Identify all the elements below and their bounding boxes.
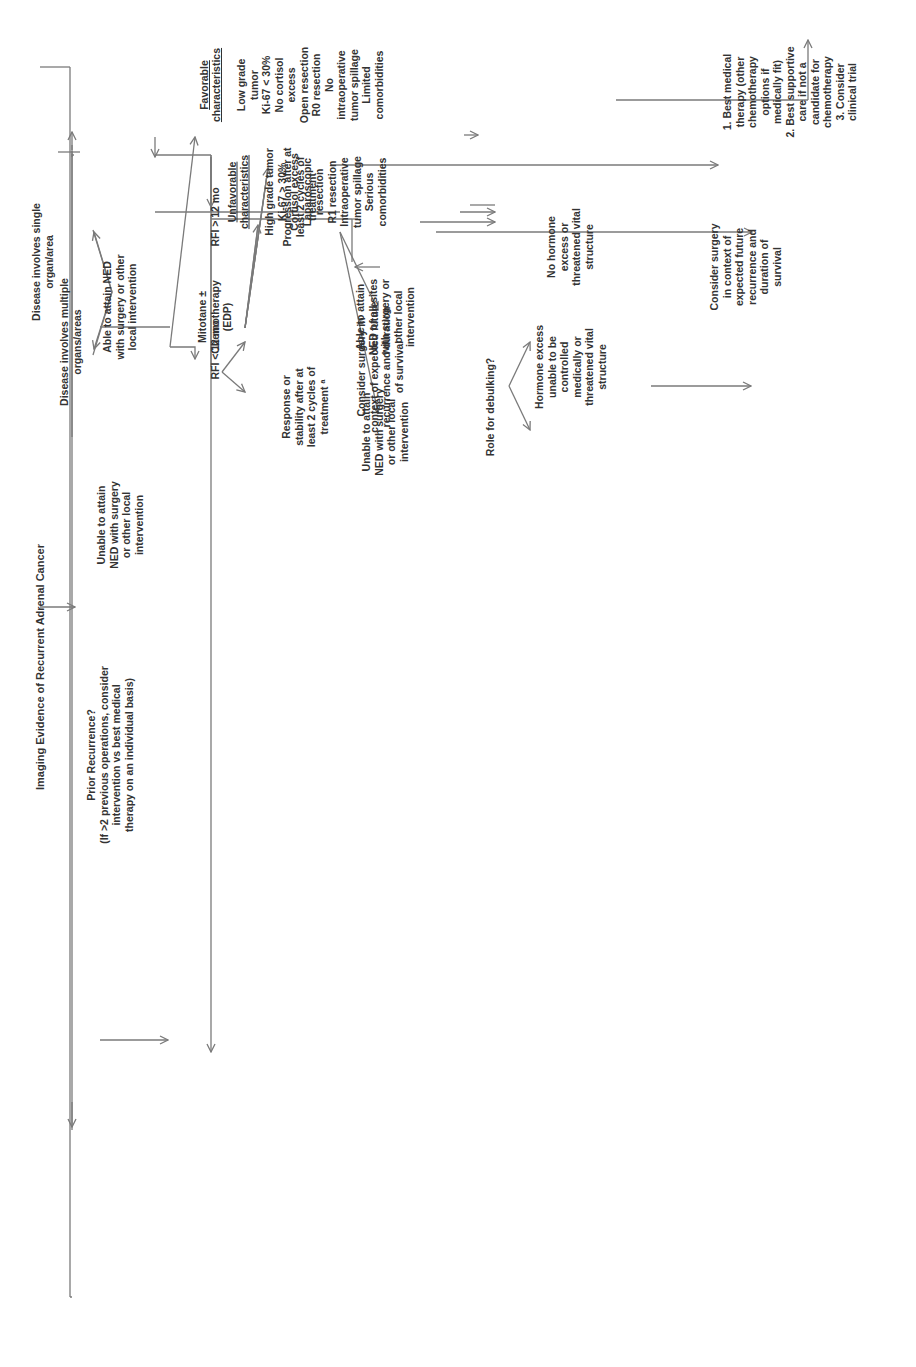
node-no-hormone-excess: No hormone excess or threatened vital st… [545,208,595,286]
node-hormone-excess: Hormone excess unable to be controlled m… [533,325,608,409]
node-prior-recurrence: Prior Recurrence? (If >2 previous operat… [85,666,135,844]
node-mitotane-chemotherapy: Mitotane ± Chemotherapy (EDP) [196,280,234,354]
node-consider-surgery-right: Consider surgery in context of expected … [708,224,783,311]
node-multiple-organs: Disease involves multiple organs/areas [58,278,83,406]
node-response-stability: Response or stability after at least 2 c… [280,367,330,448]
node-able-attain-ned-all-sites: Able to attain NED of all sites with sur… [354,279,417,355]
node-best-medical-therapy: 1. Best medical therapy (other chemother… [721,46,859,137]
node-role-for-debulking: Role for debulking? [484,358,497,457]
node-unable-attain-ned-2: Unable to attain NED with surgery or oth… [360,388,410,476]
root-node-title: Imaging Evidence of Recurrent Adrenal Ca… [34,544,47,790]
favorable-items: Low grade tumor Ki-67 < 30% No cortisol … [235,47,385,123]
connector-lines [0,0,916,1367]
flowchart-canvas: Imaging Evidence of Recurrent Adrenal Ca… [0,0,916,1367]
node-able-attain-ned: Able to attain NED with surgery or other… [101,254,139,359]
node-single-organ: Disease involves single organ/area [30,203,55,321]
unfavorable-heading: Unfavorable characteristics [225,148,250,236]
node-unable-attain-ned: Unable to attain NED with surgery or oth… [95,481,145,569]
node-progression: Progression after at least 2 cycles of t… [281,147,319,246]
favorable-heading: Favorable characteristics [198,43,223,128]
node-favorable-characteristics: Favorable characteristics Low grade tumo… [185,43,385,128]
